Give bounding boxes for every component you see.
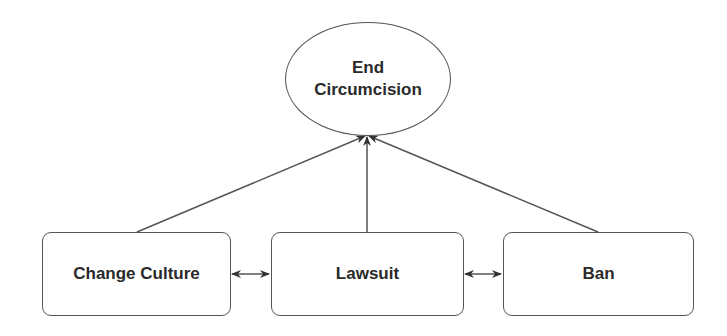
edge-ban-to-goal: [369, 136, 598, 232]
node-change-culture: Change Culture: [42, 232, 231, 316]
node-ban: Ban: [503, 232, 694, 316]
goal-label-line1: End: [352, 57, 384, 79]
node-label: Lawsuit: [336, 263, 399, 285]
goal-node-end-circumcision: End Circumcision: [285, 22, 451, 136]
node-label: Change Culture: [73, 263, 200, 285]
goal-label-line2: Circumcision: [314, 79, 422, 101]
edge-change-culture-to-goal: [137, 136, 365, 232]
node-label: Ban: [582, 263, 614, 285]
node-lawsuit: Lawsuit: [271, 232, 464, 316]
